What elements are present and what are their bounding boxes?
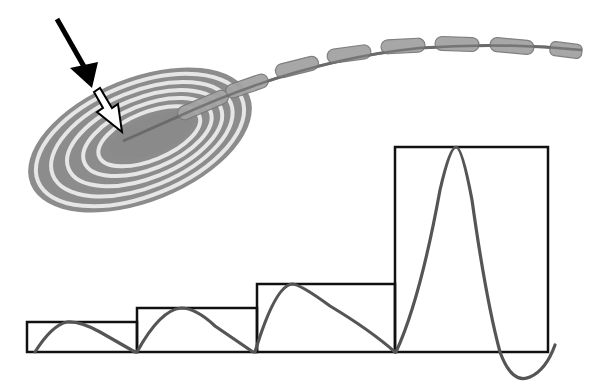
diagram-canvas xyxy=(0,0,596,386)
waveform-2 xyxy=(137,308,253,352)
diagram xyxy=(0,0,596,386)
waveform-1 xyxy=(35,322,135,352)
solid-arrow-icon xyxy=(57,19,98,88)
waveform-3 xyxy=(255,284,395,352)
step-box-1 xyxy=(27,322,137,352)
step-box-2 xyxy=(137,308,257,352)
lamellar-corpuscle xyxy=(7,38,272,241)
step-box-4 xyxy=(395,147,548,352)
waveform-4 xyxy=(396,147,555,379)
